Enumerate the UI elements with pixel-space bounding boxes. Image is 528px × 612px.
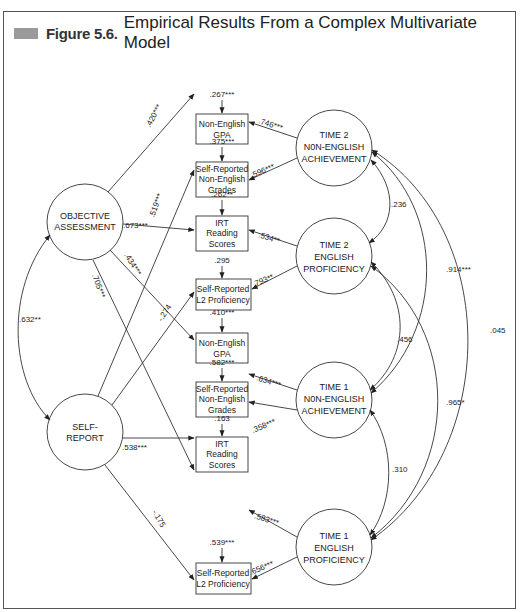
box-t1-irt-line-3: Scores <box>209 460 235 470</box>
t2-english-label-1: TIME 2 <box>319 240 348 250</box>
residual-t1-grades: .582*** <box>210 358 235 367</box>
residual-t2-irt: .262** <box>211 190 233 199</box>
t2-nonenglish-label-2: N0N-ENGLISH <box>304 142 365 152</box>
box-t1-gpa-line-1: Non-English <box>199 338 246 348</box>
box-t2-irt-line-1: IRT <box>215 218 229 228</box>
box-t1-grades-line-2: Non-English <box>199 394 246 404</box>
path-objective-irt-t2: .673*** <box>123 221 148 230</box>
t1-nonenglish-label-2: N0N-ENGLISH <box>304 394 365 404</box>
latent-self-report <box>47 394 123 470</box>
corr-label-t1non-t1eng: .310 <box>392 465 408 474</box>
residual-t1-gpa: .410*** <box>210 308 235 317</box>
path-self-l2-t2: -.274 <box>156 302 174 323</box>
residual-t2-l2: .295 <box>214 256 230 265</box>
path-objective-gpa-t2: .420*** <box>144 103 164 129</box>
path-objective-irt-t1: .705*** <box>90 273 107 299</box>
corr-label-t2non-t2eng: .236 <box>391 200 407 209</box>
residual-t2-grades: .375*** <box>210 137 235 146</box>
box-t1-irt-line-1: IRT <box>215 439 229 449</box>
corr-t2non-t2eng <box>369 160 390 243</box>
t1-nonenglish-label-3: ACHIEVEMENT <box>301 406 367 416</box>
self-report-label-1: SELF- <box>72 422 98 432</box>
box-t2-irt-line-2: Reading <box>206 228 238 238</box>
path-objective-gpa-t1: .434*** <box>122 251 143 277</box>
t1-english-label-3: PROFICIENCY <box>303 555 365 565</box>
loading-t1-gpa: .634*** <box>255 373 281 389</box>
t2-english-label-2: ENGLISH <box>314 252 354 262</box>
t2-english-label-3: PROFICIENCY <box>303 264 365 274</box>
loading-t1-irt: .583*** <box>253 511 279 527</box>
loading-t2-l2: .793** <box>251 272 275 289</box>
loading-t2-gpa: .746*** <box>257 116 283 132</box>
box-t1-grades-line-1: Self-Reported <box>196 384 249 394</box>
residual-t1-irt: .163 <box>214 414 230 423</box>
box-t1-irt-line-2: Reading <box>206 449 238 459</box>
path-self-grades-t2: .519*** <box>147 192 164 218</box>
path-self-grades-t1: .538*** <box>122 443 147 452</box>
box-t2-gpa-line-1: Non-English <box>199 119 246 129</box>
corr-objective-self <box>18 235 50 420</box>
t1-english-label-1: TIME 1 <box>319 531 348 541</box>
t2-nonenglish-label-3: ACHIEVEMENT <box>301 154 367 164</box>
self-report-label-2: REPORT <box>66 433 104 443</box>
corr-label-t2non-t1eng: .045 <box>490 326 506 335</box>
box-t1-l2-line-2: L2 Proficiency <box>196 579 250 589</box>
objective-label-1: OBJECTIVE <box>60 211 110 221</box>
corr-t1non-t1eng <box>370 410 389 535</box>
t1-nonenglish-label-1: TIME 1 <box>319 382 348 392</box>
box-t2-l2-line-1: Self-Reported <box>197 284 250 294</box>
corr-t2eng-t1eng <box>371 266 438 538</box>
path-diagram: OBJECTIVE ASSESSMENT SELF- REPORT TIME 2… <box>0 0 528 612</box>
box-t1-l2-line-1: Self-Reported <box>197 568 250 578</box>
corr-t2non-t1eng <box>371 150 468 540</box>
t1-english-label-2: ENGLISH <box>314 543 354 553</box>
box-t2-irt-line-3: Scores <box>209 239 235 249</box>
residual-t1-l2: .539*** <box>210 538 235 547</box>
loading-t1-grades: .358*** <box>250 417 276 435</box>
corr-label-t2non-t1non: .914*** <box>446 265 471 274</box>
corr-label-t2eng-t1eng: .965* <box>446 398 465 407</box>
loading-t2-irt: .534** <box>257 230 281 245</box>
objective-label-2: ASSESSMENT <box>54 222 116 232</box>
t2-nonenglish-label-1: TIME 2 <box>319 130 348 140</box>
box-t2-l2-line-2: L2 Proficiency <box>196 295 250 305</box>
residual-t2-gpa: .267*** <box>210 90 235 99</box>
loading-t2-grades: .596*** <box>249 162 275 180</box>
corr-t2eng-t1non <box>370 262 400 390</box>
corr-label-t2eng-t1non: .456 <box>397 335 413 344</box>
box-t2-grades-line-1: Self-Reported <box>196 164 249 174</box>
corr-label-objective-self: .632** <box>19 315 41 324</box>
box-t2-grades-line-2: Non-English <box>199 174 246 184</box>
